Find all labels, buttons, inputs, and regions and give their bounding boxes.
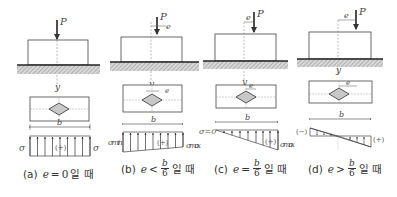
caption-b: (b) e < b 6 일 때 [121, 159, 195, 178]
panel-b: P e y e b (+) σmin σmax [108, 11, 201, 152]
caption-suffix: 일 때 [172, 161, 195, 176]
caption-tag: (c) [214, 163, 228, 175]
width-label: b [151, 115, 156, 124]
caption-fraction: b 6 [348, 159, 356, 178]
stress-left-label: σ [19, 143, 26, 153]
caption-op: = [241, 163, 250, 175]
caption-op: < [149, 163, 158, 175]
svg-text:e: e [249, 82, 253, 90]
eccentricity-label: e [246, 13, 251, 22]
fraction-denominator: 6 [254, 169, 260, 178]
stress-right-label: σ [93, 143, 100, 153]
sign-label: (+) [55, 144, 67, 152]
svg-text:e: e [346, 79, 350, 87]
stress-diagram [310, 128, 371, 150]
stress-left-label: σ=0 [199, 127, 216, 136]
load-label: P [256, 8, 264, 19]
caption-var: e [328, 163, 334, 175]
stress-right-label: σmax [186, 141, 201, 150]
panel-c: P e y e b (+) σ=0 σmax [199, 8, 295, 150]
ground-hatch [17, 65, 100, 74]
axis-label: y [335, 65, 342, 75]
sign-label: (+) [265, 138, 277, 146]
fraction-denominator: 6 [349, 169, 355, 178]
caption-d: (d) e > b 6 일 때 [308, 159, 382, 178]
stress-left-label: σmin [108, 138, 123, 147]
caption-suffix: 일 때 [70, 166, 93, 181]
caption-op: = [51, 168, 60, 180]
caption-suffix: 일 때 [359, 161, 382, 176]
eccentricity-label: e [344, 11, 349, 20]
eccentricity-label: e [166, 22, 171, 31]
width-label: b [339, 110, 344, 119]
stress-right-label: (+) [373, 136, 385, 144]
caption-fraction: b 6 [161, 159, 169, 178]
caption-fraction: b 6 [253, 159, 261, 178]
panel-d: P e y e b (−) [296, 6, 385, 150]
panel-a: P y b (+) σ σ [17, 16, 100, 156]
width-label: b [57, 118, 62, 127]
footing-block [28, 40, 88, 65]
caption-op: > [336, 163, 345, 175]
axis-label: y [54, 82, 61, 92]
caption-a: (a) e = 0 일 때 [23, 166, 94, 181]
load-label: P [159, 11, 167, 22]
caption-tag: (d) [308, 163, 323, 175]
caption-var: e [141, 163, 147, 175]
stress-right-label: σmax [280, 140, 295, 149]
svg-text:e: e [165, 87, 169, 95]
caption-var: e [233, 163, 239, 175]
load-label: P [59, 16, 67, 27]
caption-tag: (b) [121, 163, 136, 175]
caption-rhs: 0 [62, 168, 69, 180]
caption-var: e [43, 168, 49, 180]
sign-label: (+) [157, 139, 169, 147]
caption-c: (c) e = b 6 일 때 [214, 159, 287, 178]
stress-left-label: (−) [296, 128, 308, 136]
caption-tag: (a) [23, 168, 38, 180]
caption-suffix: 일 때 [264, 161, 287, 176]
fraction-denominator: 6 [162, 169, 168, 178]
load-label: P [358, 6, 366, 17]
width-label: b [245, 113, 250, 122]
